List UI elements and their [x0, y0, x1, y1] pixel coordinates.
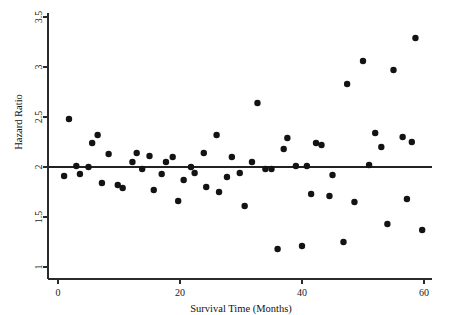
data-point — [61, 173, 67, 179]
data-point — [254, 100, 260, 106]
data-point — [169, 154, 175, 160]
y-tick-label: 2.5 — [33, 111, 44, 124]
data-point — [268, 166, 274, 172]
data-point — [105, 151, 111, 157]
data-point — [237, 170, 243, 176]
data-point — [146, 153, 152, 159]
data-point — [66, 116, 72, 122]
x-tick-label: 0 — [56, 287, 61, 298]
data-point — [229, 154, 235, 160]
data-point — [412, 35, 418, 41]
axes-group — [48, 13, 432, 279]
data-point — [326, 193, 332, 199]
data-point — [344, 81, 350, 87]
y-tick-label: 1.5 — [33, 211, 44, 224]
data-point — [224, 174, 230, 180]
data-point — [180, 177, 186, 183]
data-point — [390, 67, 396, 73]
x-tick-label: 40 — [297, 287, 307, 298]
data-point — [203, 184, 209, 190]
data-point — [313, 140, 319, 146]
y-tick-label: 3 — [33, 65, 44, 70]
data-point — [216, 189, 222, 195]
data-point — [119, 185, 125, 191]
data-point — [384, 221, 390, 227]
y-tick-label: 1 — [33, 265, 44, 270]
data-point — [419, 227, 425, 233]
scatter-plot-figure: 11.522.533.5 0204060 Survival Time (Mont… — [0, 0, 450, 315]
data-point — [201, 150, 207, 156]
data-point — [77, 171, 83, 177]
data-point — [213, 132, 219, 138]
x-tick-label: 20 — [175, 287, 185, 298]
data-point — [378, 144, 384, 150]
data-point — [274, 246, 280, 252]
data-point — [99, 180, 105, 186]
data-point — [404, 196, 410, 202]
plot-canvas: 11.522.533.5 0204060 Survival Time (Mont… — [0, 0, 450, 315]
x-tick-label: 60 — [419, 287, 429, 298]
data-point — [281, 146, 287, 152]
data-point — [241, 203, 247, 209]
data-point — [188, 164, 194, 170]
y-axis-ticks: 11.522.533.5 — [33, 11, 49, 270]
data-point — [191, 170, 197, 176]
data-point — [284, 135, 290, 141]
data-point — [399, 134, 405, 140]
data-point — [372, 130, 378, 136]
data-point — [329, 172, 335, 178]
scatter-points-group — [61, 35, 425, 252]
data-point — [73, 163, 79, 169]
data-point — [360, 58, 366, 64]
data-point — [89, 140, 95, 146]
data-point — [293, 163, 299, 169]
data-point — [366, 162, 372, 168]
data-point — [351, 199, 357, 205]
data-point — [163, 159, 169, 165]
data-point — [249, 159, 255, 165]
data-point — [151, 187, 157, 193]
data-point — [85, 164, 91, 170]
data-point — [159, 171, 165, 177]
x-axis-ticks: 0204060 — [56, 279, 430, 298]
y-tick-label: 3.5 — [33, 11, 44, 24]
data-point — [409, 139, 415, 145]
data-point — [308, 191, 314, 197]
y-axis-title: Hazard Ratio — [13, 94, 24, 150]
data-point — [304, 163, 310, 169]
data-point — [133, 150, 139, 156]
data-point — [318, 142, 324, 148]
data-point — [299, 243, 305, 249]
data-point — [340, 239, 346, 245]
data-point — [139, 166, 145, 172]
data-point — [175, 198, 181, 204]
x-axis-title: Survival Time (Months) — [190, 303, 292, 315]
y-tick-label: 2 — [33, 165, 44, 170]
data-point — [262, 166, 268, 172]
data-point — [94, 132, 100, 138]
data-point — [129, 159, 135, 165]
